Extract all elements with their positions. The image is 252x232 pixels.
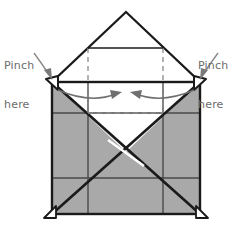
pinch-here-label-right: Pinch here [198, 33, 228, 137]
pinch-label-right-line1: Pinch [198, 59, 228, 72]
pinch-label-left-line2: here [4, 98, 34, 111]
origami-diagram-canvas: Pinch here Pinch here [0, 0, 252, 232]
top-triangle-flap [52, 12, 200, 82]
pinch-here-label-left: Pinch here [4, 33, 34, 137]
bottom-right-corner-flap [196, 206, 208, 218]
bottom-left-corner-flap [44, 206, 56, 218]
pinch-label-left-line1: Pinch [4, 59, 34, 72]
pinch-label-right-line2: here [198, 98, 228, 111]
